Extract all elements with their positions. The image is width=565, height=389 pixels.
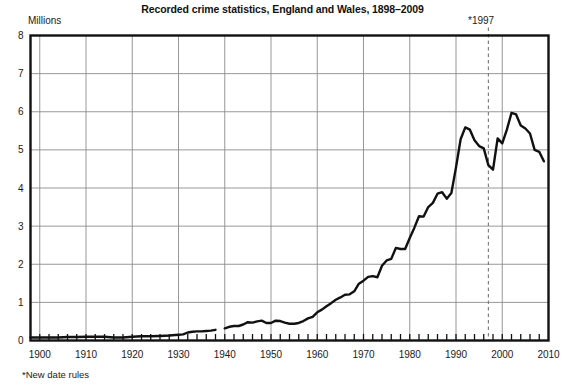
x-axis-tick-labels: 1900191019201930194019501960197019801990… [29,349,560,360]
data-line-series [31,113,544,338]
svg-text:1990: 1990 [445,349,468,360]
y-axis-tick-labels: 012345678 [18,30,24,346]
svg-text:8: 8 [18,30,24,41]
svg-text:2010: 2010 [537,349,560,360]
crime-statistics-chart: Recorded crime statistics, England and W… [0,0,565,389]
svg-text:1980: 1980 [399,349,422,360]
svg-text:4: 4 [18,183,24,194]
svg-text:1: 1 [18,297,24,308]
plot-area: 012345678 190019101920193019401950196019… [0,0,565,389]
svg-text:1910: 1910 [75,349,98,360]
chart-footnote: *New date rules [22,369,89,380]
svg-text:3: 3 [18,221,24,232]
svg-text:1930: 1930 [167,349,190,360]
svg-text:1940: 1940 [214,349,237,360]
grid-lines [31,36,549,341]
svg-text:2000: 2000 [491,349,514,360]
svg-text:1970: 1970 [352,349,375,360]
svg-text:1950: 1950 [260,349,283,360]
svg-text:1900: 1900 [29,349,52,360]
svg-text:1960: 1960 [306,349,329,360]
svg-text:6: 6 [18,106,24,117]
svg-text:7: 7 [18,68,24,79]
svg-text:1920: 1920 [121,349,144,360]
svg-text:0: 0 [18,335,24,346]
svg-text:2: 2 [18,259,24,270]
svg-text:5: 5 [18,144,24,155]
